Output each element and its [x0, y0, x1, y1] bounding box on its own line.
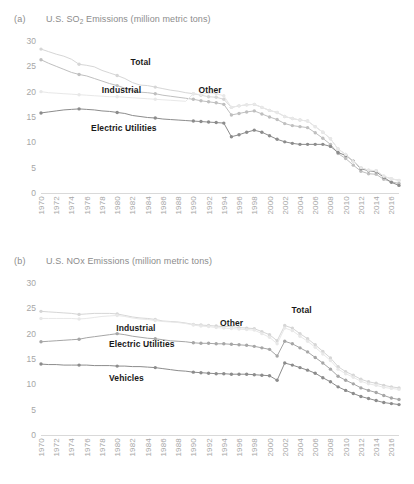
y-tick-label: 0	[31, 188, 36, 198]
plot-area-b: 051015202530TotalOtherIndustrialElectric…	[41, 283, 399, 435]
series-marker	[390, 177, 393, 180]
series-marker	[207, 120, 210, 123]
y-tick-label: 15	[27, 354, 36, 364]
series-marker	[199, 324, 202, 327]
x-tick-label: 2014	[372, 196, 381, 215]
y-tick-label: 10	[27, 137, 36, 147]
series-marker	[321, 352, 324, 355]
x-tick-label: 1996	[235, 438, 244, 457]
series-marker	[260, 112, 263, 115]
series-marker	[253, 345, 256, 348]
series-marker	[253, 128, 256, 131]
series-marker	[382, 386, 385, 389]
series-marker	[352, 160, 355, 163]
series-marker	[268, 348, 271, 351]
series-marker	[192, 98, 195, 101]
series-marker	[237, 104, 240, 107]
series-marker	[344, 153, 347, 156]
series-marker	[77, 73, 80, 76]
series-marker	[222, 372, 225, 375]
y-tick-label: 15	[27, 112, 36, 122]
series-marker	[314, 143, 317, 146]
x-axis-line-a	[41, 193, 399, 194]
x-axis-line-b	[41, 435, 399, 436]
x-tick-label: 1990	[189, 438, 198, 457]
series-marker	[291, 124, 294, 127]
x-tick-label: 1998	[250, 196, 259, 215]
series-marker	[207, 100, 210, 103]
x-tick-label: 2000	[266, 438, 275, 457]
series-marker	[283, 115, 286, 118]
series-marker	[39, 362, 42, 365]
series-marker	[260, 131, 263, 134]
series-marker	[352, 376, 355, 379]
series-marker	[367, 397, 370, 400]
series-marker	[222, 342, 225, 345]
plot-area-a: 051015202530TotalIndustrialOtherElectric…	[41, 41, 399, 193]
x-axis-labels-a: 1970197219741976197819801982198419861988…	[41, 196, 399, 242]
series-marker	[283, 340, 286, 343]
series-marker	[268, 374, 271, 377]
series-marker	[321, 361, 324, 364]
series-annotation-industrial: Industrial	[102, 85, 141, 95]
series-marker	[245, 110, 248, 113]
x-tick-label: 1986	[159, 438, 168, 457]
panel-b-tag: (b)	[14, 256, 26, 266]
x-tick-label: 1992	[205, 438, 214, 457]
x-tick-label: 2002	[281, 196, 290, 215]
series-line	[41, 49, 399, 180]
series-marker	[207, 371, 210, 374]
series-marker	[397, 184, 400, 187]
series-marker	[352, 392, 355, 395]
series-marker	[222, 103, 225, 106]
panel-b: (b) U.S. NOx Emissions (million metric t…	[0, 242, 414, 484]
series-marker	[344, 389, 347, 392]
series-marker	[329, 145, 332, 148]
series-marker	[253, 328, 256, 331]
series-marker	[336, 375, 339, 378]
series-marker	[268, 134, 271, 137]
series-marker	[253, 109, 256, 112]
series-marker	[306, 126, 309, 129]
x-tick-label: 2016	[387, 196, 396, 215]
series-marker	[214, 342, 217, 345]
series-line	[41, 109, 399, 186]
series-marker	[314, 371, 317, 374]
series-marker	[283, 140, 286, 143]
emissions-figure: (a) U.S. SO2 Emissions (million metric t…	[0, 0, 414, 484]
series-marker	[275, 354, 278, 357]
series-marker	[275, 379, 278, 382]
x-tick-label: 1972	[52, 438, 61, 457]
series-marker	[344, 379, 347, 382]
panel-a: (a) U.S. SO2 Emissions (million metric t…	[0, 0, 414, 242]
series-marker	[192, 341, 195, 344]
series-annotation-industrial: Industrial	[116, 323, 155, 333]
series-line	[41, 363, 399, 405]
series-marker	[352, 163, 355, 166]
series-marker	[367, 169, 370, 172]
series-marker	[329, 137, 332, 140]
series-marker	[336, 147, 339, 150]
series-marker	[115, 95, 118, 98]
panel-b-title: U.S. NOx Emissions (million metric tons)	[46, 256, 212, 266]
series-marker	[298, 125, 301, 128]
series-marker	[230, 135, 233, 138]
x-tick-label: 1994	[220, 438, 229, 457]
series-marker	[154, 85, 157, 88]
series-marker	[291, 329, 294, 332]
series-marker	[260, 106, 263, 109]
series-marker	[397, 403, 400, 406]
series-marker	[192, 119, 195, 122]
series-marker	[291, 363, 294, 366]
x-tick-label: 1980	[113, 438, 122, 457]
series-marker	[306, 119, 309, 122]
y-tick-label: 20	[27, 329, 36, 339]
series-marker	[283, 326, 286, 329]
series-marker	[39, 340, 42, 343]
series-marker	[321, 137, 324, 140]
series-marker	[359, 166, 362, 169]
series-marker	[374, 169, 377, 172]
series-marker	[314, 131, 317, 134]
series-marker	[245, 131, 248, 134]
series-marker	[77, 317, 80, 320]
